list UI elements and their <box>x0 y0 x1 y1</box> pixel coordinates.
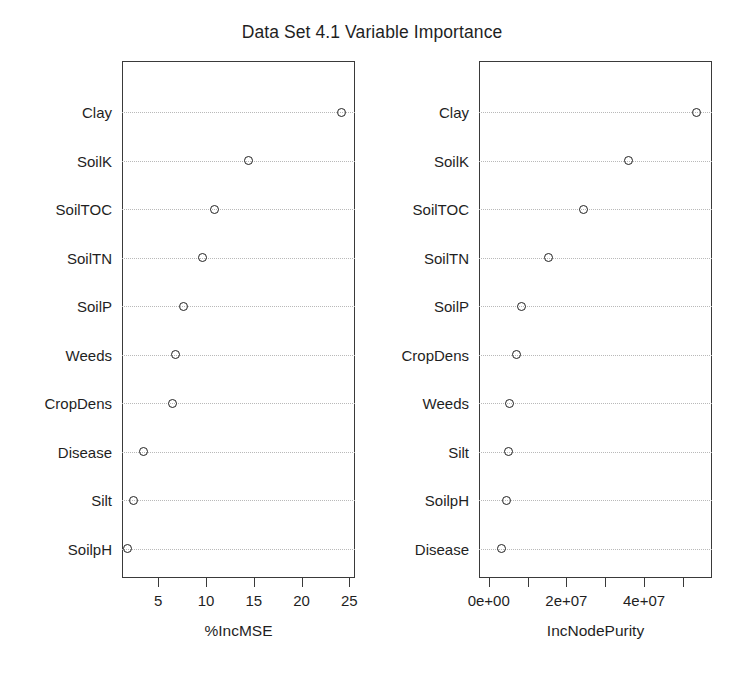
gridline <box>122 258 355 259</box>
data-point <box>210 205 219 214</box>
data-point <box>244 156 253 165</box>
category-label: SoilpH <box>349 492 469 509</box>
axis-tick <box>158 578 159 587</box>
axis-tick <box>566 578 567 587</box>
gridline <box>122 306 355 307</box>
data-point <box>179 302 188 311</box>
data-point <box>171 350 180 359</box>
gridline <box>122 452 355 453</box>
data-point <box>129 496 138 505</box>
data-point <box>502 496 511 505</box>
gridline <box>122 355 355 356</box>
panel-inc-node-purity: ClaySoilKSoilTOCSoilTNSoilPCropDensWeeds… <box>479 61 712 578</box>
gridline <box>479 452 712 453</box>
axis-tick <box>489 578 490 587</box>
category-label: CropDens <box>349 346 469 363</box>
category-label: Weeds <box>0 346 112 363</box>
category-label: Disease <box>349 540 469 557</box>
gridline <box>122 403 355 404</box>
data-point <box>579 205 588 214</box>
category-label: SoilK <box>0 152 112 169</box>
axis-tick <box>254 578 255 587</box>
category-label: SoilTN <box>0 249 112 266</box>
data-point <box>497 544 506 553</box>
panel-percent-inc-mse: ClaySoilKSoilTOCSoilTNSoilPWeedsCropDens… <box>122 61 355 578</box>
axis-tick-label: 20 <box>293 592 310 609</box>
category-label: Silt <box>349 443 469 460</box>
variable-importance-figure: Data Set 4.1 Variable Importance ClaySoi… <box>0 0 744 687</box>
axis-tick <box>605 578 606 587</box>
gridline <box>479 161 712 162</box>
axis-tick-label: 25 <box>341 592 358 609</box>
category-label: SoilpH <box>0 540 112 557</box>
gridline <box>122 209 355 210</box>
data-point <box>624 156 633 165</box>
axis-tick <box>644 578 645 587</box>
category-label: Disease <box>0 443 112 460</box>
gridline <box>479 549 712 550</box>
gridline <box>479 209 712 210</box>
data-point <box>139 447 148 456</box>
axis-tick-label: 15 <box>245 592 262 609</box>
data-point <box>198 253 207 262</box>
data-point <box>517 302 526 311</box>
axis-tick-label: 5 <box>154 592 162 609</box>
axis-tick-label: 2e+07 <box>545 592 587 609</box>
gridline <box>122 112 355 113</box>
category-label: SoilTN <box>349 249 469 266</box>
data-point <box>692 108 701 117</box>
category-label: SoilP <box>0 298 112 315</box>
category-label: SoilTOC <box>0 201 112 218</box>
data-point <box>504 447 513 456</box>
axis-tick <box>349 578 350 587</box>
data-point <box>168 399 177 408</box>
gridline <box>479 112 712 113</box>
chart-title: Data Set 4.1 Variable Importance <box>0 22 744 43</box>
gridline <box>479 403 712 404</box>
category-label: SoilK <box>349 152 469 169</box>
category-label: SoilTOC <box>349 201 469 218</box>
category-label: Silt <box>0 492 112 509</box>
data-point <box>505 399 514 408</box>
gridline <box>479 306 712 307</box>
category-label: Clay <box>0 104 112 121</box>
category-label: CropDens <box>0 395 112 412</box>
axis-tick <box>528 578 529 587</box>
gridline <box>479 500 712 501</box>
category-label: Weeds <box>349 395 469 412</box>
axis-tick <box>206 578 207 587</box>
x-axis-title: %IncMSE <box>204 622 272 640</box>
category-label: Clay <box>349 104 469 121</box>
axis-tick-label: 0e+00 <box>468 592 510 609</box>
gridline <box>122 161 355 162</box>
axis-tick <box>302 578 303 587</box>
gridline <box>122 500 355 501</box>
axis-tick-label: 4e+07 <box>623 592 665 609</box>
data-point <box>337 108 346 117</box>
axis-tick <box>683 578 684 587</box>
gridline <box>479 258 712 259</box>
axis-tick-label: 10 <box>198 592 215 609</box>
category-label: SoilP <box>349 298 469 315</box>
gridline <box>122 549 355 550</box>
x-axis-title: IncNodePurity <box>547 622 644 640</box>
